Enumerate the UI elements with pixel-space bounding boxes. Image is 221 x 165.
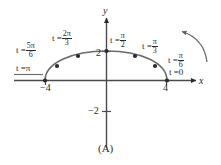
label-t-pi-eq: t = — [16, 63, 26, 73]
tick-label-y-pos2: 2 — [96, 48, 101, 58]
label-t-pi-3-denominator: 3 — [152, 47, 158, 56]
label-t-2pi-3-fraction: 2π3 — [62, 30, 72, 48]
label-t-5pi-6: t =5π6 — [16, 42, 36, 60]
direction-arrow-icon — [182, 32, 207, 63]
label-t-pi: t =π — [16, 64, 30, 73]
label-t-5pi-6-denominator: 6 — [26, 51, 36, 60]
label-t-pi-value: π — [26, 63, 31, 73]
label-t-0-eq: t = — [169, 67, 179, 77]
tick-label-y-neg2: −2 — [88, 106, 99, 116]
label-t-pi-2-denominator: 2 — [120, 41, 126, 50]
parametric-curve-figure: t =π t =5π6 t =2π3 t =π2 t =π3 t =π6 t =… — [0, 0, 221, 165]
label-t-0-value: 0 — [179, 67, 184, 77]
label-t-2pi-3-denominator: 3 — [62, 39, 72, 48]
figure-caption: (A) — [98, 143, 113, 154]
axis-label-x: x — [199, 76, 203, 86]
label-t-2pi-3-eq: t = — [52, 33, 62, 43]
label-t-0: t =0 — [169, 68, 183, 77]
point-t-pi-3 — [133, 54, 137, 58]
point-t-2pi-3 — [76, 54, 80, 58]
label-t-pi-3: t =π3 — [142, 38, 158, 56]
axis-label-y: y — [103, 6, 107, 16]
label-t-pi-3-fraction: π3 — [152, 38, 158, 56]
plot-canvas — [0, 0, 221, 165]
label-t-5pi-6-fraction: 5π6 — [26, 42, 36, 60]
point-t-5pi-6 — [55, 64, 59, 68]
label-t-pi-3-eq: t = — [142, 41, 152, 51]
tick-label-x-pos4: 4 — [163, 83, 168, 93]
point-t-pi-6 — [153, 64, 157, 68]
point-t-pi-2 — [104, 49, 108, 53]
label-t-pi-2-eq: t = — [110, 35, 120, 45]
tick-label-x-neg4: −4 — [40, 83, 51, 93]
label-t-pi-2: t =π2 — [110, 32, 126, 50]
label-t-2pi-3: t =2π3 — [52, 30, 72, 48]
label-t-pi-6-eq: t = — [168, 55, 178, 65]
label-t-pi-2-fraction: π2 — [120, 32, 126, 50]
label-t-5pi-6-eq: t = — [16, 45, 26, 55]
